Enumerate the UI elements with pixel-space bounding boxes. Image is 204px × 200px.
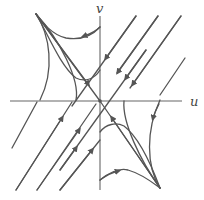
hyperbola-ul-2 [36,14,100,80]
phase-portrait: v u [0,0,204,200]
hyperbola-lr-1 [100,169,160,188]
v-axis-label: v [96,2,103,15]
u-axis-label: u [190,95,198,108]
phase-portrait-canvas [0,0,204,200]
flow-line-ur-4 [160,58,185,95]
flow-line-ll-1 [12,102,37,148]
equilibrium-point [98,99,102,103]
hyperbola-ul-4 [36,14,77,100]
